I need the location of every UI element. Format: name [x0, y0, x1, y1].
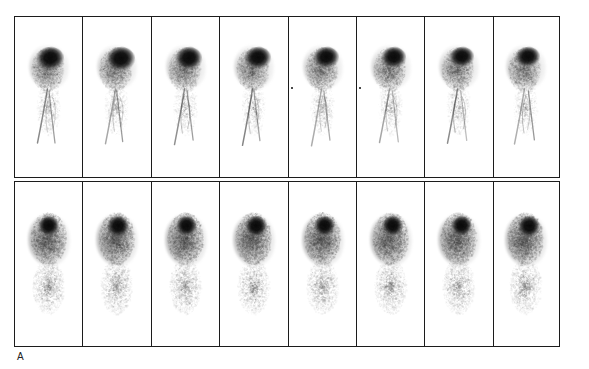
panel-label: A [17, 352, 24, 362]
scintigram-image [368, 45, 414, 149]
scan-frame[interactable] [288, 181, 358, 347]
scintigram-image [503, 212, 549, 322]
uptake-speckle-tail [368, 260, 414, 322]
scan-frame[interactable] [288, 16, 358, 178]
vascular-trail [94, 87, 140, 149]
vascular-trail [163, 87, 209, 149]
scan-frame[interactable] [424, 16, 494, 178]
scintigram-image [231, 212, 277, 322]
scintigraphy-row-bottom [14, 181, 571, 347]
scintigram-image [300, 45, 346, 149]
uptake-speckle-tail [503, 260, 549, 322]
scintigram-image [26, 212, 72, 322]
scan-frame[interactable] [82, 181, 152, 347]
vascular-trail [436, 87, 482, 149]
scintigram-image [436, 45, 482, 149]
scan-frame[interactable] [151, 181, 221, 347]
scan-frame[interactable] [424, 181, 494, 347]
scan-frame[interactable] [356, 16, 426, 178]
scintigram-image [163, 212, 209, 322]
uptake-speckle-tail [163, 260, 209, 322]
uptake-speckle-tail [231, 260, 277, 322]
vascular-trail [503, 87, 549, 149]
scan-frame[interactable] [493, 16, 560, 178]
reference-marker-dot [359, 87, 361, 89]
uptake-speckle-tail [94, 260, 140, 322]
vascular-trail [231, 87, 277, 149]
uptake-speckle-tail [300, 260, 346, 322]
scintigram-image [94, 212, 140, 322]
vascular-trail [26, 87, 72, 149]
uptake-speckle-tail [26, 260, 72, 322]
scintigram-image [300, 212, 346, 322]
scintigram-image [26, 45, 72, 149]
figure-panel-a: A [0, 0, 589, 369]
scan-frame[interactable] [14, 16, 84, 178]
scan-frame[interactable] [219, 16, 289, 178]
scan-frame[interactable] [151, 16, 221, 178]
scan-frame[interactable] [219, 181, 289, 347]
scintigraphy-row-top [14, 16, 571, 178]
scintigram-image [163, 45, 209, 149]
scintigram-image [231, 45, 277, 149]
scintigram-image [94, 45, 140, 149]
scan-frame[interactable] [82, 16, 152, 178]
scan-frame[interactable] [14, 181, 84, 347]
scan-frame[interactable] [356, 181, 426, 347]
scintigram-image [368, 212, 414, 322]
vascular-trail [300, 87, 346, 149]
scan-frame[interactable] [493, 181, 560, 347]
uptake-speckle-tail [436, 260, 482, 322]
scintigram-image [503, 45, 549, 149]
scintigram-image [436, 212, 482, 322]
reference-marker-dot [291, 87, 293, 89]
vascular-trail [368, 87, 414, 149]
